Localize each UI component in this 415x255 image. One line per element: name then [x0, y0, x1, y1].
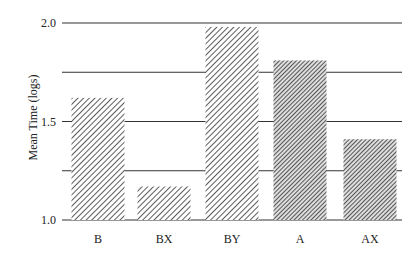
- bar-ax: [344, 139, 397, 220]
- x-tick-label: B: [94, 232, 102, 246]
- bar-b: [72, 98, 125, 220]
- y-tick-label: 1.0: [41, 213, 56, 227]
- bar-a: [274, 60, 327, 220]
- y-tick-label: 1.5: [41, 115, 56, 129]
- x-tick-label: BY: [224, 232, 241, 246]
- x-tick-label: A: [296, 232, 305, 246]
- x-tick-label: BX: [156, 232, 173, 246]
- bar-by: [206, 27, 259, 220]
- bar-bx: [138, 187, 191, 220]
- y-tick-label: 2.0: [41, 16, 56, 30]
- x-tick-label: AX: [361, 232, 379, 246]
- bar-chart: 1.01.52.0BBXBYAAX: [0, 0, 415, 255]
